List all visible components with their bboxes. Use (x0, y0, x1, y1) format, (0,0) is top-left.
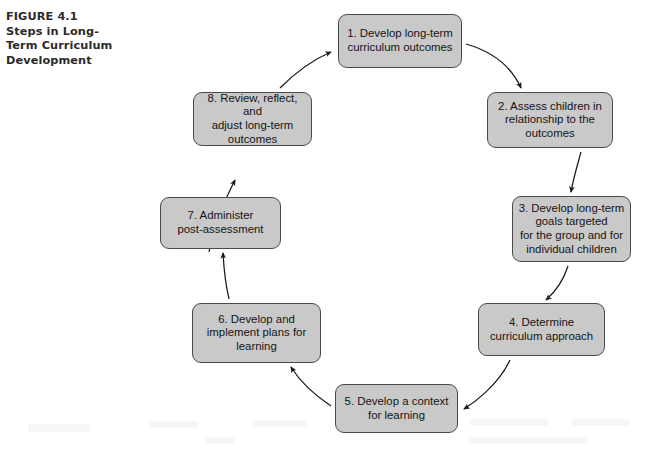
scan-bleed-artifact (150, 421, 198, 428)
arrow-2-to-3 (571, 152, 581, 192)
arrow-6-to-7 (223, 253, 229, 299)
scan-bleed-artifact (468, 437, 588, 444)
cycle-step-3-label: 3. Develop long-term goals targeted for … (519, 202, 625, 256)
cycle-step-6[interactable]: 6. Develop and implement plans for learn… (192, 303, 321, 363)
figure-container: FIGURE 4.1 Steps in Long- Term Curriculu… (0, 0, 646, 453)
cycle-step-1-label: 1. Develop long-term curriculum outcomes (347, 27, 453, 54)
cycle-step-4-label: 4. Determine curriculum approach (490, 316, 593, 343)
figure-caption-line: Development (6, 54, 116, 69)
cycle-step-3[interactable]: 3. Develop long-term goals targeted for … (512, 196, 631, 262)
cycle-step-8-label: 8. Review, reflect, and adjust long-term… (199, 92, 306, 146)
figure-caption: FIGURE 4.1 Steps in Long- Term Curriculu… (6, 10, 116, 68)
figure-caption-line: Steps in Long- (6, 25, 116, 40)
cycle-step-7-label: 7. Administer post-assessment (177, 209, 263, 236)
cycle-step-6-label: 6. Develop and implement plans for learn… (207, 313, 306, 354)
cycle-step-8[interactable]: 8. Review, reflect, and adjust long-term… (193, 92, 312, 146)
scan-bleed-artifact (28, 424, 90, 432)
arrow-5-to-6 (291, 367, 331, 406)
scan-bleed-artifact (470, 419, 548, 426)
arrow-4-to-5 (464, 360, 510, 409)
figure-caption-line: Term Curriculum (6, 39, 116, 54)
cycle-step-7[interactable]: 7. Administer post-assessment (160, 197, 281, 249)
scan-bleed-artifact (252, 420, 306, 427)
cycle-step-2-label: 2. Assess children in relationship to th… (498, 100, 602, 141)
cycle-step-4[interactable]: 4. Determine curriculum approach (478, 303, 605, 356)
scan-bleed-artifact (205, 437, 235, 444)
cycle-step-2[interactable]: 2. Assess children in relationship to th… (487, 92, 613, 148)
cycle-step-5[interactable]: 5. Develop a context for learning (335, 384, 458, 433)
cycle-step-1[interactable]: 1. Develop long-term curriculum outcomes (338, 14, 462, 68)
scan-bleed-artifact (572, 419, 630, 426)
arrow-3-to-4 (546, 266, 568, 300)
arrow-8-to-1 (280, 52, 331, 88)
cycle-step-5-label: 5. Develop a context for learning (345, 395, 449, 422)
figure-caption-line: FIGURE 4.1 (6, 10, 116, 25)
arrow-1-to-2 (466, 44, 521, 88)
